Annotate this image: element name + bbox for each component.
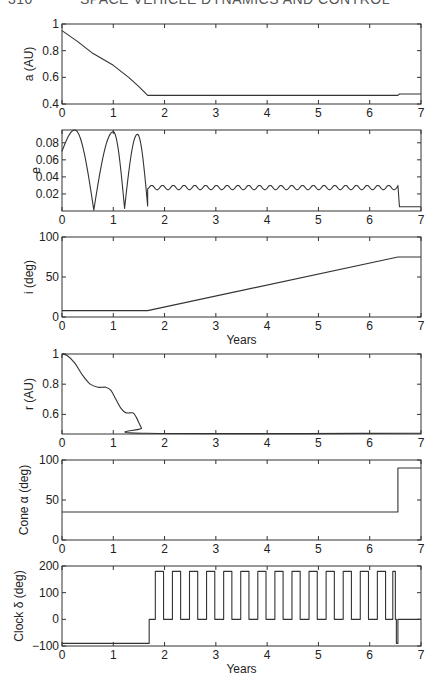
x-tick-label: 3: [213, 213, 220, 227]
x-tick-label: 1: [110, 542, 117, 556]
x-tick-label: 6: [366, 213, 373, 227]
x-tick-label: 0: [59, 436, 66, 450]
y-tick-label: 0: [52, 533, 59, 547]
subplot-i: 01234567050100i (deg)Years: [22, 230, 425, 347]
y-axis-label: i (deg): [22, 260, 36, 294]
subplot-clock: 01234567−1000100200Clock δ (deg)Years: [12, 559, 425, 676]
x-tick-label: 3: [213, 106, 220, 120]
y-tick-label: 0.6: [42, 407, 59, 421]
plot-frame: [62, 130, 421, 211]
x-tick-label: 4: [264, 436, 271, 450]
x-tick-label: 1: [110, 648, 117, 662]
x-tick-label: 0: [59, 648, 66, 662]
plot-frame: [62, 24, 421, 104]
y-tick-label: 0.02: [36, 187, 60, 201]
x-tick-label: 6: [366, 436, 373, 450]
x-tick-label: 4: [264, 542, 271, 556]
x-tick-label: 7: [418, 106, 425, 120]
x-tick-label: 2: [161, 213, 168, 227]
y-tick-label: 0.8: [42, 377, 59, 391]
x-tick-label: 3: [213, 542, 220, 556]
subplot-a: 012345670.40.60.81a (AU): [22, 17, 425, 120]
y-tick-label: 100: [39, 453, 59, 467]
x-tick-label: 7: [418, 648, 425, 662]
data-line-i: [62, 257, 421, 311]
x-tick-label: 5: [315, 106, 322, 120]
y-tick-label: 0.4: [42, 97, 59, 111]
x-tick-label: 2: [161, 106, 168, 120]
data-line-r: [62, 354, 421, 434]
y-tick-label: 50: [46, 493, 60, 507]
y-tick-label: 0.8: [42, 44, 59, 58]
x-tick-label: 5: [315, 648, 322, 662]
y-axis-label: Clock δ (deg): [12, 570, 26, 641]
x-tick-label: 3: [213, 319, 220, 333]
x-axis-label: Years: [226, 333, 256, 347]
y-tick-label: 0: [52, 310, 59, 324]
data-line-clock: [62, 571, 421, 643]
y-tick-label: 0.08: [36, 136, 60, 150]
x-tick-label: 6: [366, 648, 373, 662]
figure: 012345670.40.60.81a (AU)012345670.020.04…: [0, 0, 440, 687]
plot-frame: [62, 354, 421, 434]
x-tick-label: 2: [161, 319, 168, 333]
x-axis-label: Years: [226, 662, 256, 676]
plot-frame: [62, 237, 421, 317]
y-tick-label: 1: [52, 347, 59, 361]
x-tick-label: 5: [315, 213, 322, 227]
subplot-cone: 01234567050100Cone α (deg): [17, 453, 425, 556]
data-line-a: [62, 31, 421, 96]
data-line-cone: [62, 468, 421, 512]
y-tick-label: 0: [52, 612, 59, 626]
y-axis-label: a (AU): [22, 47, 36, 82]
y-axis-label: Cone α (deg): [17, 465, 31, 535]
x-tick-label: 7: [418, 213, 425, 227]
x-tick-label: 6: [366, 319, 373, 333]
y-axis-label: r (AU): [22, 378, 36, 410]
x-tick-label: 0: [59, 319, 66, 333]
y-tick-label: 50: [46, 270, 60, 284]
x-tick-label: 6: [366, 542, 373, 556]
x-tick-label: 7: [418, 319, 425, 333]
plot-frame: [62, 460, 421, 540]
y-tick-label: 0.06: [36, 153, 60, 167]
x-tick-label: 2: [161, 648, 168, 662]
x-tick-label: 2: [161, 436, 168, 450]
x-tick-label: 5: [315, 436, 322, 450]
x-tick-label: 2: [161, 542, 168, 556]
data-line-e: [62, 130, 421, 210]
x-tick-label: 1: [110, 319, 117, 333]
x-tick-label: 4: [264, 213, 271, 227]
x-tick-label: 3: [213, 436, 220, 450]
x-tick-label: 1: [110, 106, 117, 120]
y-tick-label: 100: [39, 586, 59, 600]
y-tick-label: 100: [39, 230, 59, 244]
x-tick-label: 7: [418, 436, 425, 450]
x-tick-label: 0: [59, 106, 66, 120]
subplot-e: 012345670.020.040.060.08e: [29, 130, 425, 227]
x-tick-label: 5: [315, 542, 322, 556]
x-tick-label: 7: [418, 542, 425, 556]
x-tick-label: 4: [264, 319, 271, 333]
x-tick-label: 1: [110, 213, 117, 227]
x-tick-label: 6: [366, 106, 373, 120]
x-tick-label: 1: [110, 436, 117, 450]
x-tick-label: 4: [264, 106, 271, 120]
x-tick-label: 4: [264, 648, 271, 662]
x-tick-label: 5: [315, 319, 322, 333]
y-tick-label: 1: [52, 17, 59, 31]
x-tick-label: 0: [59, 542, 66, 556]
y-tick-label: 200: [39, 559, 59, 573]
subplot-r: 012345670.60.81r (AU): [22, 347, 425, 450]
x-tick-label: 0: [59, 213, 66, 227]
x-tick-label: 3: [213, 648, 220, 662]
y-tick-label: −100: [32, 639, 59, 653]
y-tick-label: 0.6: [42, 70, 59, 84]
plot-frame: [62, 566, 421, 646]
y-axis-label: e: [29, 167, 43, 174]
